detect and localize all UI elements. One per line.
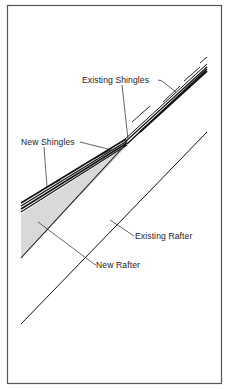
label-new-shingles: New Shingles xyxy=(21,137,75,147)
existing-shingles xyxy=(124,57,207,144)
label-existing-rafter: Existing Rafter xyxy=(135,231,192,241)
leader-existing-shingles-a xyxy=(158,80,176,92)
leader-new-rafter xyxy=(38,222,96,265)
leader-new-shingles-a xyxy=(80,142,112,150)
roof-diagram xyxy=(0,0,229,389)
label-existing-shingles: Existing Shingles xyxy=(82,75,149,85)
leader-new-shingles-b xyxy=(44,147,47,187)
new-rafter-bottom-edge xyxy=(21,143,127,258)
label-new-rafter: New Rafter xyxy=(96,260,140,270)
leader-existing-shingles-b xyxy=(122,85,128,139)
